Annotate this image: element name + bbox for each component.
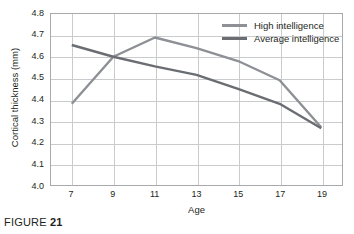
legend-item-label: Average intelligence <box>254 33 339 44</box>
legend-swatch-icon <box>222 24 247 27</box>
x-axis-title: Age <box>50 204 343 215</box>
chart-legend: High intelligenceAverage intelligence <box>222 19 339 45</box>
x-axis-tick-label: 13 <box>185 190 209 199</box>
legend-item: High intelligence <box>222 19 339 32</box>
y-axis-tick-label: 4.8 <box>20 9 44 18</box>
x-axis-tick-label: 7 <box>59 190 83 199</box>
y-axis-tick-label: 4.4 <box>20 95 44 104</box>
x-axis-tick-label: 19 <box>310 190 334 199</box>
y-axis-tick-label: 4.6 <box>20 52 44 61</box>
legend-swatch-icon <box>222 37 247 40</box>
y-axis-tick-label: 4.0 <box>20 182 44 191</box>
y-axis-tick-label: 4.1 <box>20 160 44 169</box>
y-axis-tick-label: 4.3 <box>20 117 44 126</box>
x-axis-tick-label: 9 <box>101 190 125 199</box>
y-axis-title: Cortical thickness (mm) <box>9 13 20 183</box>
series-line <box>72 38 321 128</box>
x-axis-tick-label: 17 <box>268 190 292 199</box>
x-axis-tick-label: 15 <box>226 190 250 199</box>
figure-caption: FIGURE 21 <box>4 216 63 228</box>
figure-container: Cortical thickness (mm) 4.84.74.64.54.44… <box>0 0 354 234</box>
x-axis-tick-label: 11 <box>143 190 167 199</box>
legend-item-label: High intelligence <box>254 20 324 31</box>
figure-caption-number: 21 <box>50 216 63 228</box>
y-axis-tick-label: 4.7 <box>20 30 44 39</box>
legend-item: Average intelligence <box>222 32 339 45</box>
figure-caption-word: FIGURE <box>4 216 47 228</box>
y-axis-tick-label: 4.5 <box>20 73 44 82</box>
y-axis-tick-label: 4.2 <box>20 138 44 147</box>
